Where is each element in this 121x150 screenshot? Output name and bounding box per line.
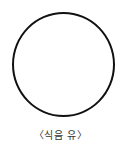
figure-caption: 〈식음 유〉 [0, 129, 121, 143]
circle-shape [12, 12, 115, 117]
